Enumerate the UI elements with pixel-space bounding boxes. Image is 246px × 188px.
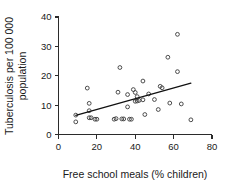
data-point [168, 101, 172, 105]
data-points [74, 32, 193, 123]
data-point [176, 70, 180, 74]
data-point [189, 118, 193, 122]
y-axis-title-line1: Tuberculosis per 100 000 [3, 17, 15, 135]
scatter-plot-figure: 010203040 020406080 Free school meals (%… [0, 0, 246, 188]
data-point [85, 86, 89, 90]
data-point [156, 108, 160, 112]
x-tick-label: 60 [168, 141, 179, 152]
data-point [126, 93, 130, 97]
x-tick-label: 80 [207, 141, 218, 152]
data-point [166, 55, 170, 59]
data-point [74, 120, 78, 124]
data-point [133, 91, 137, 95]
data-point [143, 113, 147, 117]
x-axis-ticks [59, 135, 213, 139]
y-axis-ticks [55, 17, 59, 135]
chart-canvas: 010203040 020406080 Free school meals (%… [0, 0, 246, 188]
data-point [116, 90, 120, 94]
data-point [176, 32, 180, 36]
x-axis-tick-labels: 020406080 [56, 141, 217, 152]
x-tick-label: 40 [130, 141, 141, 152]
data-point [179, 102, 183, 106]
y-axis-title-line2: population [16, 52, 28, 101]
y-tick-label: 20 [41, 70, 52, 81]
data-point [126, 105, 130, 109]
data-point [141, 79, 145, 83]
y-tick-label: 30 [41, 41, 52, 52]
y-tick-label: 40 [41, 11, 52, 22]
data-point [141, 98, 145, 102]
x-axis-title: Free school meals (% children) [63, 168, 208, 180]
data-point [87, 101, 91, 105]
axes [59, 17, 213, 135]
data-point [153, 98, 157, 102]
data-point [118, 66, 122, 70]
y-tick-label: 0 [46, 129, 51, 140]
y-axis-tick-labels: 010203040 [41, 11, 52, 140]
x-tick-label: 0 [56, 141, 61, 152]
y-tick-label: 10 [41, 100, 52, 111]
x-tick-label: 20 [92, 141, 103, 152]
